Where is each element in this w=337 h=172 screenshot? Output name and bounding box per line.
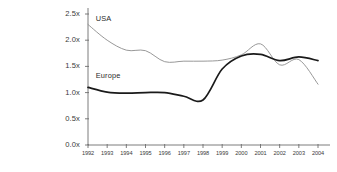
series-line-usa	[88, 24, 318, 84]
y-tick-label: 0.0x	[20, 140, 80, 149]
y-tick-label: 1.0x	[20, 88, 80, 97]
series-lines-group	[88, 24, 318, 101]
line-chart: 0.0x0.5x1.0x1.5x2.0x2.5x 199219931994199…	[0, 0, 337, 172]
y-tick-label: 2.0x	[20, 35, 80, 44]
axes-group	[85, 8, 330, 148]
x-tick-label: 2004	[303, 150, 333, 156]
series-label-usa: USA	[96, 14, 112, 23]
y-tick-label: 1.5x	[20, 61, 80, 70]
series-label-europe: Europe	[96, 71, 121, 80]
y-tick-label: 2.5x	[20, 9, 80, 18]
y-tick-label: 0.5x	[20, 114, 80, 123]
